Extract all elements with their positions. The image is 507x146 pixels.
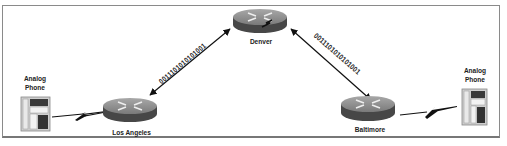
analog-phone-left-icon: [21, 97, 50, 131]
router-baltimore-icon: [341, 96, 395, 121]
phone-label-left-line2: Phone: [21, 83, 49, 92]
router-los-angeles-icon: [103, 98, 157, 122]
phone-label-right-line2: Phone: [461, 75, 489, 84]
router-label-los-angeles: Los Angeles: [112, 128, 150, 137]
phone-label-left-line1: Analog: [21, 74, 49, 83]
link-denver-baltimore: [291, 29, 371, 100]
router-label-denver: Denver: [247, 37, 275, 46]
lightning-bolt-right-icon: [400, 106, 457, 119]
phone-label-right-line1: Analog: [461, 66, 489, 75]
router-denver-icon: [233, 9, 287, 33]
router-label-baltimore: Baltimore: [354, 125, 387, 134]
network-diagram: [0, 0, 507, 146]
lightning-bolt-left-icon: [52, 111, 106, 121]
analog-phone-right-icon: [462, 89, 487, 125]
